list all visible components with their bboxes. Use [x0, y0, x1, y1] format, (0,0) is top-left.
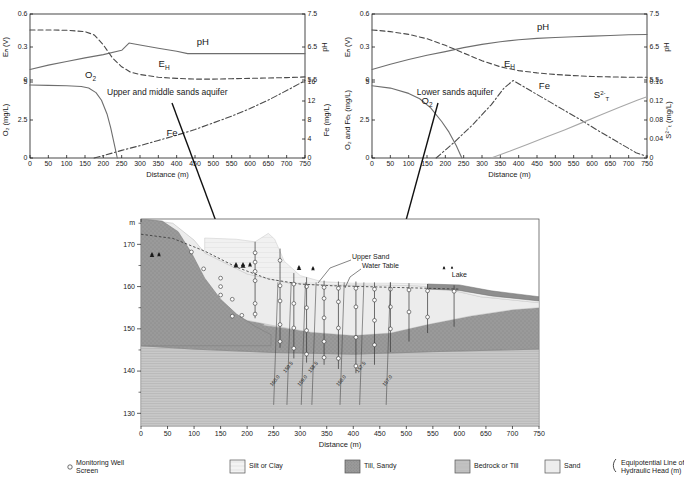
- xtick-label: 600: [244, 160, 256, 167]
- series-label-eh: EH: [504, 58, 515, 71]
- monitoring-well-screen: [322, 286, 326, 290]
- annotation-lake: Lake: [452, 271, 467, 278]
- monitoring-well-screen: [337, 300, 341, 304]
- y-axis-label-right-lower: Fe (mg/L): [322, 103, 331, 136]
- ytick-label: 4: [308, 135, 312, 142]
- ytick-label: 0.12: [650, 97, 664, 104]
- series-label-fe: Fe: [166, 127, 177, 138]
- monitoring-well-screen: [278, 299, 282, 303]
- ytick-label: 0.04: [650, 135, 664, 142]
- xtick-label: 500: [549, 160, 561, 167]
- ytick-label: 5: [24, 78, 28, 85]
- chart-panel-lower-sands: 00.30.65.56.57.502.5500.040.080.120.1605…: [343, 10, 673, 179]
- monitoring-well-screen: [253, 269, 257, 273]
- legend-swatch-monitoring-well-screen: [68, 465, 72, 469]
- monitoring-well-screen: [219, 276, 223, 280]
- monitoring-well-screen: [278, 340, 282, 344]
- legend-label-till-sandy: Till, Sandy: [364, 462, 397, 470]
- monitoring-well-screen: [407, 288, 411, 292]
- monitoring-well-screen: [322, 340, 326, 344]
- svg-text:O₂ and Feₜ (mg/L): O₂ and Feₜ (mg/L): [343, 90, 352, 150]
- ytick-label: 16: [308, 78, 316, 85]
- xtick-label: 550: [226, 160, 238, 167]
- series-label-ph: pH: [537, 21, 549, 32]
- tree-icon: [19, 233, 25, 237]
- xtick-label: 50: [44, 160, 52, 167]
- xtick-label: 500: [400, 430, 412, 437]
- xtick-label: 450: [374, 430, 386, 437]
- svg-text:pH: pH: [662, 42, 671, 52]
- series-O₂: [30, 85, 117, 158]
- xtick-label: 0: [370, 160, 374, 167]
- xtick-label: 700: [623, 160, 635, 167]
- monitoring-well-screen: [452, 289, 456, 293]
- monitoring-well-screen: [292, 346, 296, 350]
- cross-section-panel: 160.0159.5159.0158.5158.0157.5157.0Upper…: [19, 219, 545, 449]
- y-axis-label-left-upper: Eₕ (V): [343, 36, 352, 57]
- y-axis-label-left-upper: Eₕ (V): [1, 36, 10, 57]
- ytick-label: 7.5: [308, 10, 318, 17]
- xtick-label: 650: [480, 430, 492, 437]
- monitoring-well-screen: [337, 357, 341, 361]
- xtick-label: 550: [427, 430, 439, 437]
- ytick-label: 170: [123, 241, 135, 248]
- xtick-label: 50: [386, 160, 394, 167]
- ytick-label: 0.6: [18, 10, 28, 17]
- series-Eₕ: [30, 30, 305, 79]
- legend-label-monitoring-well-screen: Monitoring WellScreen: [76, 459, 125, 474]
- monitoring-well-screen: [292, 326, 296, 330]
- ytick-label: 6.5: [650, 43, 660, 50]
- xtick-label: 750: [533, 430, 545, 437]
- xtick-label: 400: [171, 160, 183, 167]
- ytick-label: 0.3: [18, 43, 28, 50]
- series-label-fe: Fe: [539, 80, 550, 91]
- monitoring-well-screen: [253, 302, 257, 306]
- xtick-label: 600: [586, 160, 598, 167]
- monitoring-well-screen: [373, 343, 377, 347]
- svg-text:Eₕ (V): Eₕ (V): [343, 36, 352, 57]
- monitoring-well-screen: [373, 287, 377, 291]
- monitoring-well-screen: [322, 297, 326, 301]
- series-label-o2: O2: [85, 69, 96, 82]
- xtick-label: 0: [139, 430, 143, 437]
- xtick-label: 0: [28, 160, 32, 167]
- monitoring-well-screen: [354, 305, 358, 309]
- xtick-label: 150: [79, 160, 91, 167]
- monitoring-well-screen: [278, 323, 282, 327]
- monitoring-well-screen: [278, 259, 282, 263]
- legend-swatch-equipotential-line: [613, 459, 616, 472]
- ytick-label: 0.3: [360, 43, 370, 50]
- xtick-label: 200: [97, 160, 109, 167]
- xtick-label: 300: [294, 430, 306, 437]
- tree-icon: [20, 231, 25, 235]
- ytick-label: 0.16: [650, 78, 664, 85]
- xtick-label: 300: [134, 160, 146, 167]
- panel-title-lower: Lower sands aquifer: [417, 87, 494, 97]
- xtick-label: 250: [268, 430, 280, 437]
- monitoring-well-screen: [426, 289, 430, 293]
- xtick-label: 100: [188, 430, 200, 437]
- monitoring-well-screen: [219, 285, 223, 289]
- xtick-label: 700: [507, 430, 519, 437]
- xtick-label: 150: [215, 430, 227, 437]
- y-axis-unit-label: m: [129, 219, 135, 226]
- ytick-label: 140: [123, 367, 135, 374]
- ytick-label: 6.5: [308, 43, 318, 50]
- series-label-ph: pH: [197, 36, 209, 47]
- ytick-label: 12: [308, 97, 316, 104]
- xtick-label: 600: [454, 430, 466, 437]
- panel-title-upper-middle: Upper and middle sands aquifer: [107, 87, 228, 97]
- series-S²⁻ₜ: [491, 97, 647, 158]
- monitoring-well-screen: [322, 356, 326, 360]
- svg-text:S²⁻ₜ (mg/L): S²⁻ₜ (mg/L): [664, 101, 673, 139]
- monitoring-well-screen: [407, 310, 411, 314]
- xtick-label: 450: [531, 160, 543, 167]
- xtick-label: 400: [347, 430, 359, 437]
- monitoring-well-screen: [389, 305, 393, 309]
- xtick-label: 50: [164, 430, 172, 437]
- tree-icon: [80, 247, 84, 251]
- monitoring-well-screen: [337, 326, 341, 330]
- y-axis-label-right-lower: S²⁻ₜ (mg/L): [664, 101, 673, 139]
- monitoring-well-screen: [278, 284, 282, 288]
- monitoring-well-screen: [253, 251, 257, 255]
